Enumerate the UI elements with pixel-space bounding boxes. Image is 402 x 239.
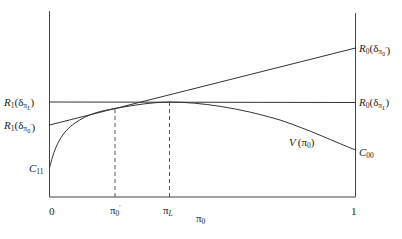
tick-label-one: 1: [351, 205, 357, 217]
value-curve-v: [50, 102, 356, 168]
svg-text:R0(δπL): R0(δπL): [358, 96, 389, 111]
label-r0-delta-pi-l: R0(δπL): [358, 96, 389, 111]
label-r0-delta-pi0-prime: R0(δπ0′): [358, 42, 390, 57]
tick-label-pi-l: πL: [163, 204, 173, 218]
svg-text:R1(δπL): R1(δπL): [3, 96, 34, 111]
label-r1-delta-pi0-prime: R1(δπ0′): [3, 119, 35, 134]
tick-label-zero: 0: [49, 205, 55, 217]
label-v-pi0: V(π0): [289, 136, 315, 150]
tick-label-pi0-prime: π0′: [110, 204, 121, 218]
label-c11: C11: [29, 162, 44, 176]
svg-text:R1(δπ0′): R1(δπ0′): [3, 119, 35, 134]
horizontal-line-r-pi-l: [50, 102, 356, 103]
svg-text:V(π0): V(π0): [289, 136, 315, 150]
label-r1-delta-pi-l: R1(δπL): [3, 96, 34, 111]
svg-text:C00: C00: [359, 146, 374, 160]
x-axis-title: π0: [196, 212, 206, 226]
value-function-diagram: R1(δπL) R1(δπ0′) C11 R0(δπ0′) R0(δπL) C0…: [0, 0, 402, 239]
svg-text:R0(δπ0′): R0(δπ0′): [358, 42, 390, 57]
svg-text:C11: C11: [29, 162, 44, 176]
label-c00: C00: [359, 146, 374, 160]
